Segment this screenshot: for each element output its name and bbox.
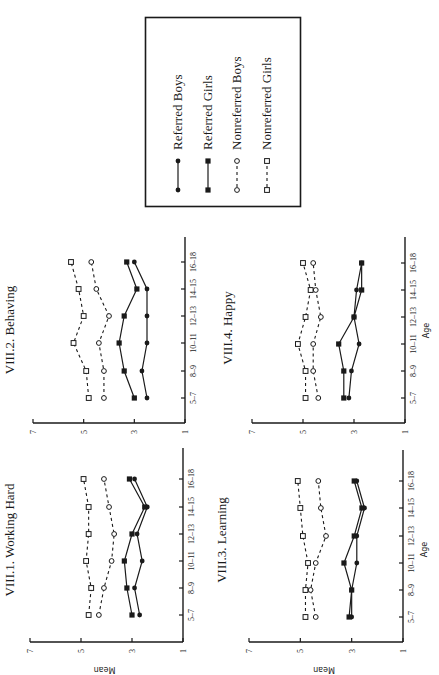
- age-tick-label: 14–15: [189, 279, 198, 299]
- filled-square-marker: [122, 368, 127, 373]
- age-tick-label: 16–18: [187, 469, 196, 489]
- filled-square-marker: [122, 558, 127, 563]
- legend-label: Referred Boys: [170, 75, 185, 150]
- series-referred-boys: [132, 477, 150, 618]
- open-square-marker: [298, 506, 303, 511]
- series-line: [313, 263, 321, 398]
- open-square-marker: [308, 288, 313, 293]
- age-tick-label: 10–11: [409, 334, 418, 354]
- mean-tick-label: 5: [299, 430, 308, 434]
- series-line: [84, 479, 92, 615]
- open-circle-marker: [311, 261, 316, 266]
- series-nonreferred-boys: [89, 260, 112, 401]
- legend-box: [146, 18, 301, 207]
- open-square-marker: [86, 532, 91, 537]
- open-circle-marker: [308, 588, 313, 593]
- open-square-marker: [301, 534, 306, 539]
- panel-title: VIII.1. Working Hard: [2, 483, 17, 596]
- mean-tick-label: 5: [296, 649, 305, 653]
- age-tick-label: 8–9: [187, 582, 196, 594]
- mean-tick-label: 3: [130, 430, 139, 434]
- age-axis-label: Age: [420, 542, 429, 558]
- age-tick-label: 12–13: [409, 307, 418, 327]
- open-square-marker: [86, 396, 91, 401]
- series-line: [311, 481, 326, 617]
- filled-square-marker: [359, 287, 364, 292]
- mean-axis-label: Mean: [94, 665, 116, 674]
- open-circle-marker: [109, 559, 114, 564]
- filled-circle-marker: [132, 477, 137, 482]
- open-square-marker: [295, 479, 300, 484]
- mean-tick-label: 7: [29, 430, 38, 434]
- age-axis-label: Age: [422, 323, 431, 339]
- series-referred-boys: [132, 260, 149, 401]
- open-circle-marker: [316, 396, 321, 401]
- age-tick-label: 8–9: [407, 584, 416, 596]
- age-tick-label: 5–7: [187, 609, 196, 621]
- filled-circle-marker: [132, 260, 137, 265]
- filled-square-marker: [359, 260, 364, 265]
- series-line: [99, 479, 114, 615]
- open-circle-marker: [313, 288, 318, 293]
- open-circle-marker: [94, 287, 99, 292]
- series-nonreferred-boys: [311, 261, 323, 401]
- open-square-marker: [303, 315, 308, 320]
- age-tick-label: 12–13: [407, 526, 416, 546]
- mean-tick-label: 3: [348, 649, 357, 653]
- filled-circle-marker: [145, 314, 150, 319]
- age-tick-label: 5–7: [407, 611, 416, 623]
- series-nonreferred-girls: [69, 260, 92, 401]
- open-square-marker: [265, 159, 270, 164]
- open-square-marker: [84, 369, 89, 374]
- open-square-marker: [265, 188, 270, 193]
- age-tick-label: 10–11: [187, 551, 196, 571]
- age-tick-label: 10–11: [407, 553, 416, 573]
- series-line: [352, 481, 365, 617]
- filled-square-marker: [341, 368, 346, 373]
- open-square-marker: [69, 260, 74, 265]
- filled-square-marker: [127, 476, 132, 481]
- filled-circle-marker: [135, 532, 140, 537]
- open-circle-marker: [235, 188, 240, 193]
- filled-square-marker: [347, 614, 352, 619]
- filled-circle-marker: [140, 369, 145, 374]
- filled-circle-marker: [347, 396, 352, 401]
- series-referred-girls: [117, 259, 140, 400]
- filled-square-marker: [132, 395, 137, 400]
- open-circle-marker: [89, 260, 94, 265]
- age-tick-label: 5–7: [189, 392, 198, 404]
- panel-title: VIII.3. Learning: [214, 497, 229, 583]
- filled-square-marker: [351, 314, 356, 319]
- mean-tick-label: 1: [399, 649, 408, 653]
- open-circle-marker: [107, 314, 112, 319]
- chart-panel: VIII.4. Happy13575–78–910–1112–1314–1516…: [220, 237, 431, 434]
- legend: Referred BoysReferred GirlsNonreferred B…: [146, 18, 301, 207]
- age-tick-label: 10–11: [189, 333, 198, 353]
- legend-item: Referred Boys: [170, 75, 185, 193]
- age-tick-label: 12–13: [189, 306, 198, 326]
- open-square-marker: [306, 561, 311, 566]
- open-circle-marker: [96, 613, 101, 618]
- open-square-marker: [81, 477, 86, 482]
- open-circle-marker: [102, 477, 107, 482]
- filled-square-marker: [142, 504, 147, 509]
- legend-label: Nonreferred Boys: [229, 57, 244, 151]
- series-nonreferred-girls: [296, 261, 314, 401]
- filled-square-marker: [124, 259, 129, 264]
- filled-square-marker: [341, 395, 346, 400]
- open-circle-marker: [311, 369, 316, 374]
- legend-label: Referred Girls: [200, 75, 215, 150]
- open-square-marker: [303, 396, 308, 401]
- filled-square-marker: [129, 612, 134, 617]
- series-line: [119, 262, 137, 398]
- open-circle-marker: [316, 479, 321, 484]
- filled-circle-marker: [357, 342, 362, 347]
- filled-square-marker: [205, 187, 210, 192]
- open-square-marker: [86, 505, 91, 510]
- legend-label: Nonreferred Girls: [259, 57, 274, 150]
- open-circle-marker: [107, 505, 112, 510]
- filled-square-marker: [129, 531, 134, 536]
- open-circle-marker: [96, 341, 101, 346]
- filled-circle-marker: [137, 613, 142, 618]
- filled-circle-marker: [140, 559, 145, 564]
